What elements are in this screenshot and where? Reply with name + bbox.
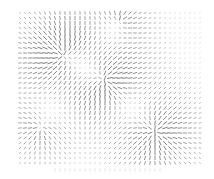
vector-segment [84,101,85,105]
vector-segment [129,137,132,139]
vector-segment [29,32,31,34]
vector-segment [20,157,21,158]
vector-segment [109,137,111,139]
vector-segment [154,53,156,54]
vector-segment [105,157,106,158]
vector-segment [105,163,106,164]
vector-segment [119,28,120,29]
vector-segment [84,91,86,95]
vector-segment [95,111,96,114]
vector-segment [48,62,52,64]
vector-segment [29,17,30,19]
vector-segment [194,163,195,164]
vector-segment [158,132,162,133]
vector-segment [149,72,151,73]
vector-segment [45,141,46,144]
vector-segment [74,41,76,45]
vector-segment [138,137,141,139]
vector-segment [134,162,135,164]
vector-segment [123,17,126,19]
vector-segment [50,147,51,150]
vector-segment [70,62,71,64]
vector-segment [114,122,115,124]
vector-segment [165,162,166,165]
vector-segment [145,102,146,104]
vector-segment [19,108,21,109]
vector-segment [89,82,91,84]
vector-segment [84,46,86,49]
vector-segment [54,137,56,139]
vector-segment [139,62,142,63]
vector-segment [128,78,132,79]
vector-segment [79,77,80,79]
vector-segment [75,142,76,143]
vector-segment [189,88,190,89]
vector-segment [59,36,60,40]
vector-segment [118,83,123,84]
vector-segment [144,77,147,78]
vector-segment [123,78,127,79]
vector-segment [144,141,147,145]
vector-segment [100,163,101,164]
vector-segment [129,152,131,154]
vector-segment [140,102,141,103]
vector-segment [154,97,156,99]
vector-segment [144,146,146,150]
vector-segment [19,73,21,74]
vector-segment [133,62,136,63]
vector-segment [104,52,106,55]
vector-segment [189,143,192,144]
vector-segment [144,82,146,83]
vector-segment [180,63,181,64]
vector-segment [55,157,56,159]
vector-segment [164,87,166,89]
vector-segment [48,47,52,49]
vector-segment [89,77,91,78]
vector-segment [104,127,105,129]
vector-segment [100,37,101,39]
vector-segment [33,77,36,78]
vector-segment [150,146,151,150]
vector-segment [149,48,151,49]
vector-segment [70,41,71,46]
vector-segment [179,157,181,159]
vector-segment [59,137,61,139]
vector-segment [74,86,76,89]
vector-segment [38,63,42,64]
vector-segment [144,97,145,99]
vector-segment [150,151,151,155]
vector-segment [53,46,56,49]
vector-segment [119,122,121,124]
vector-segment [133,57,136,58]
vector-segment [194,118,196,119]
vector-segment [168,137,172,139]
vector-segment [118,57,121,59]
vector-segment [174,147,177,149]
vector-segment [34,12,35,14]
vector-segment [144,72,147,73]
vector-segment [39,93,41,94]
vector-segment [70,127,71,129]
vector-segment [39,17,40,19]
vector-segment [59,118,60,119]
vector-segment [75,31,76,35]
vector-segment [139,48,142,49]
vector-segment [54,77,57,80]
vector-segment [133,132,136,133]
vector-segment [109,61,112,64]
vector-segment [29,22,31,24]
vector-segment [34,108,36,109]
vector-segment [164,97,166,99]
vector-segment [39,108,40,109]
vector-segment [154,13,155,14]
vector-segment [113,67,117,70]
vector-segment [94,72,95,73]
vector-segment [139,146,141,149]
vector-segment [43,62,47,63]
vector-segment [54,31,56,35]
vector-segment [178,142,181,143]
vector-segment [89,47,91,50]
vector-segment [125,112,126,113]
vector-segment [114,23,115,24]
vector-segment [64,137,65,139]
